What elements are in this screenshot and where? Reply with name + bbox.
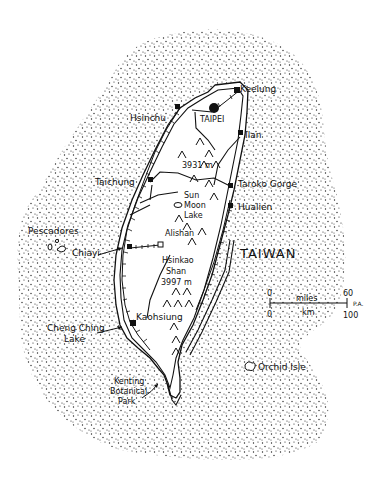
- orchid-isle-shape: [245, 362, 255, 371]
- label-taichung: Taichung: [94, 177, 135, 187]
- taiwan-map: Keelung TAIPEI Hsinchu Ilan Taichung Tar…: [0, 0, 390, 477]
- label-hsinchu: Hsinchu: [130, 113, 166, 123]
- label-kenting: Kenting: [114, 377, 144, 386]
- scale-km-label: km: [302, 308, 315, 317]
- label-cheng-ching: Cheng Ching: [47, 323, 105, 333]
- label-taroko-gorge: Taroko Gorge: [237, 179, 298, 189]
- label-hualien: Hualien: [238, 202, 272, 212]
- label-chiayi: Chiayi: [72, 248, 100, 258]
- marker-chiayi: [127, 244, 132, 249]
- label-pescadores: Pescadores: [28, 226, 79, 236]
- marker-taichung: [148, 177, 153, 182]
- label-shan: Shan: [166, 267, 186, 276]
- label-cheng-ching-lake: Lake: [64, 334, 85, 344]
- label-moon: Moon: [184, 201, 206, 210]
- label-botanical: Botanical: [110, 387, 147, 396]
- scale-km-max: 100: [343, 311, 358, 320]
- label-elevation-3931: 3931 m: [182, 161, 213, 170]
- label-orchid-isle: Orchid Isle: [258, 362, 306, 372]
- label-ilan: Ilan: [245, 130, 261, 140]
- marker-alishan: [158, 242, 163, 247]
- label-keelung: Keelung: [240, 84, 276, 94]
- scale-zero-bottom: 0: [267, 310, 272, 319]
- artist-signature: P.A.: [353, 300, 364, 307]
- label-alishan: Alishan: [165, 229, 194, 238]
- label-taiwan-title: TAIWAN: [239, 246, 296, 261]
- label-sun: Sun: [184, 191, 199, 200]
- label-elevation-3997: 3997 m: [161, 278, 192, 287]
- label-park: Park: [118, 397, 136, 406]
- marker-hualien: [228, 203, 233, 208]
- pescadores-island-2: [55, 239, 58, 242]
- scale-miles-label: miles: [296, 294, 317, 303]
- marker-hsinchu: [175, 104, 180, 109]
- label-lake: Lake: [184, 211, 203, 220]
- sun-moon-lake-shape: [174, 203, 182, 208]
- label-hsinkao: Hsinkao: [162, 256, 194, 265]
- marker-ilan: [238, 130, 243, 135]
- marker-taipei: [209, 103, 219, 113]
- label-kaohsiung: Kaohsiung: [136, 312, 183, 322]
- marker-taroko: [228, 183, 233, 188]
- label-taipei: TAIPEI: [199, 115, 224, 124]
- pescadores-island-1: [48, 244, 52, 250]
- scale-miles-max: 60: [343, 289, 353, 298]
- scale-zero-top: 0: [267, 289, 272, 298]
